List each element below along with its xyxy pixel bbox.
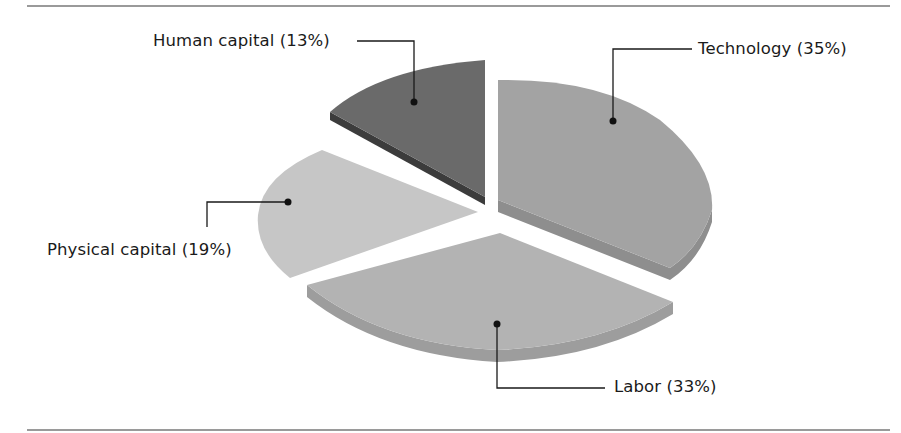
label-physical-capital: Physical capital (19%) [47,240,232,259]
dot-technology [610,118,617,125]
dot-human-capital [411,99,418,106]
label-human-capital: Human capital (13%) [153,31,330,50]
label-labor: Labor (33%) [614,377,717,396]
dot-physical-capital [285,199,292,206]
label-technology: Technology (35%) [698,39,847,58]
pie-chart [0,0,901,433]
dot-labor [494,321,501,328]
